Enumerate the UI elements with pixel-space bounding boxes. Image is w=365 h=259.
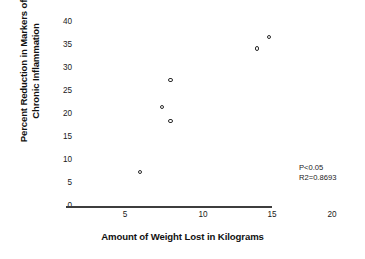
plot-area: 40 35 30 25 20 15 10 5 0 5 10 15 20 P<0.… — [0, 0, 365, 259]
x-tick-label-15: 15 — [259, 210, 285, 219]
y-tick-label-35: 35 — [50, 40, 72, 49]
data-point — [160, 105, 164, 109]
stat-annotation-pvalue: P<0.05 — [299, 163, 336, 173]
y-tick-label-15: 15 — [50, 132, 72, 141]
stat-annotation-rsquared: R2=0.8693 — [299, 173, 336, 183]
data-point — [138, 170, 142, 174]
x-tick-label-5: 5 — [112, 210, 138, 219]
x-tick-label-20: 20 — [319, 210, 345, 219]
x-tick-label-10: 10 — [190, 210, 216, 219]
y-tick-label-10: 10 — [50, 155, 72, 164]
y-tick-label-30: 30 — [50, 63, 72, 72]
y-tick-label-20: 20 — [50, 109, 72, 118]
data-point — [168, 78, 172, 82]
data-point — [168, 119, 172, 123]
data-point — [255, 46, 259, 50]
x-axis-title: Amount of Weight Lost in Kilograms — [0, 231, 365, 242]
x-axis-line — [66, 206, 272, 208]
y-tick-label-5: 5 — [50, 178, 72, 187]
y-tick-label-25: 25 — [50, 86, 72, 95]
y-tick-label-40: 40 — [50, 17, 72, 26]
data-point — [267, 35, 271, 39]
scatter-chart: Percent Reduction in Markers of Chronic … — [0, 0, 365, 259]
stat-annotation: P<0.05 R2=0.8693 — [299, 163, 336, 183]
